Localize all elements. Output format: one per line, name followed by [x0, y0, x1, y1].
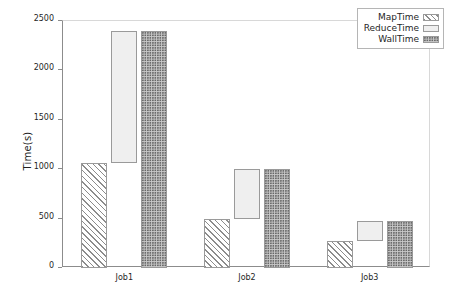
- y-tick-label: 1000: [34, 162, 54, 171]
- y-tick-mark: [58, 267, 62, 268]
- bar-reducetime-job1: [111, 31, 137, 163]
- y-tick: 0: [0, 267, 62, 268]
- diagonal-hatch-swatch: [423, 14, 439, 21]
- y-tick: 2000: [0, 69, 62, 70]
- legend-item-walltime: WallTime: [364, 34, 439, 45]
- bar-walltime-job3: [387, 221, 413, 268]
- legend-item-reducetime: ReduceTime: [364, 23, 439, 34]
- bar-walltime-job1: [141, 31, 167, 268]
- bar-reducetime-job3: [357, 221, 383, 242]
- dark-dot-swatch: [423, 36, 439, 43]
- legend-label: MapTime: [378, 12, 419, 23]
- legend-item-maptime: MapTime: [364, 12, 439, 23]
- y-tick: 1000: [0, 168, 62, 169]
- chart-figure: Time(s) 05001000150020002500 Job1Job2Job…: [0, 0, 452, 301]
- light-dot-swatch: [423, 25, 439, 32]
- y-tick-label: 0: [49, 261, 54, 270]
- legend-label: WallTime: [378, 34, 419, 45]
- x-tick-label-job3: Job3: [361, 273, 378, 282]
- y-tick-label: 1500: [34, 113, 54, 122]
- bar-walltime-job2: [264, 169, 290, 268]
- y-tick-label: 2500: [34, 14, 54, 23]
- y-tick-label: 2000: [34, 63, 54, 72]
- y-axis-label: Time(s): [22, 131, 33, 170]
- bar-maptime-job2: [204, 219, 230, 268]
- y-tick: 500: [0, 218, 62, 219]
- plot-area: Job1Job2Job3: [62, 20, 430, 267]
- y-tick: 2500: [0, 20, 62, 21]
- y-tick-label: 500: [39, 212, 54, 221]
- bar-maptime-job1: [81, 163, 107, 268]
- bar-reducetime-job2: [234, 169, 260, 218]
- x-tick-label-job1: Job1: [116, 273, 133, 282]
- bar-maptime-job3: [327, 241, 353, 268]
- legend-label: ReduceTime: [364, 23, 419, 34]
- chart-legend: MapTimeReduceTimeWallTime: [357, 8, 444, 49]
- x-tick-label-job2: Job2: [238, 273, 255, 282]
- y-tick: 1500: [0, 119, 62, 120]
